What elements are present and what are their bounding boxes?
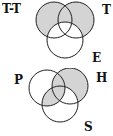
label-bottom: E: [92, 51, 101, 65]
venn-bottom-svg: P H S: [0, 68, 113, 136]
venn-diagram-top: T-T T E: [0, 0, 113, 68]
label-top-left: T-T: [2, 2, 21, 16]
venn-diagram-bottom: P H S: [0, 68, 113, 136]
label-p: P: [14, 73, 23, 87]
label-h: H: [96, 71, 107, 85]
label-top-right: T: [102, 3, 111, 17]
shaded-region-top: [36, 2, 94, 38]
label-s: S: [84, 120, 93, 134]
venn-top-svg: T-T T E: [0, 0, 113, 68]
